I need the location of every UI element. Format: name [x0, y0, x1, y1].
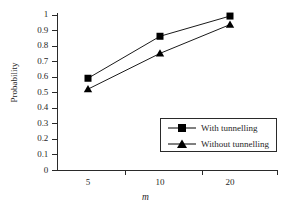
legend-entry-without-tunnelling: Without tunnelling [161, 136, 278, 152]
legend-marker-triangle-icon [167, 136, 197, 152]
x-tick-mark [202, 170, 203, 175]
y-tick-label: 0.6 [37, 72, 48, 81]
y-tick-mark [52, 123, 57, 124]
y-axis-title: Probability [10, 43, 19, 123]
y-tick-mark [52, 61, 57, 62]
legend-entry-with-tunnelling: With tunnelling [161, 120, 278, 136]
y-tick-mark [52, 46, 57, 47]
y-tick-label: 0.8 [37, 41, 48, 50]
y-tick-label: 0.2 [37, 134, 48, 143]
y-tick-label: 0.4 [37, 103, 48, 112]
y-tick-label: 0.1 [37, 150, 48, 159]
legend-marker-square-icon [167, 120, 197, 136]
y-tick-label: 0.7 [37, 57, 48, 66]
y-tick-label: 1 [44, 10, 48, 19]
data-point-triangle-icon [156, 49, 164, 56]
y-tick-mark [52, 170, 57, 171]
data-point-triangle-icon [84, 85, 92, 92]
y-tick-label: 0.3 [37, 119, 48, 128]
y-tick-mark [52, 154, 57, 155]
y-tick-mark [52, 15, 57, 16]
x-tick-label: 20 [217, 178, 243, 187]
y-tick-mark [52, 139, 57, 140]
data-point-triangle-icon [226, 20, 234, 27]
x-axis-line [57, 170, 277, 171]
x-tick-label: 5 [75, 178, 101, 187]
x-tick-mark [277, 170, 278, 175]
y-tick-mark [52, 77, 57, 78]
y-tick-mark [52, 92, 57, 93]
legend-label: Without tunnelling [201, 139, 269, 149]
data-point-square-icon [157, 33, 164, 40]
y-tick-label: 0 [44, 166, 48, 175]
data-point-square-icon [85, 75, 92, 82]
chart-legend: With tunnelling Without tunnelling [160, 118, 277, 152]
y-tick-label: 0.5 [37, 88, 48, 97]
x-tick-label: 10 [147, 178, 173, 187]
x-axis-title: m [0, 192, 291, 202]
y-tick-mark [52, 108, 57, 109]
legend-label: With tunnelling [201, 123, 257, 133]
data-point-square-icon [227, 13, 234, 20]
series-line [88, 16, 230, 78]
series-line [88, 25, 230, 90]
y-tick-label: 0.9 [37, 26, 48, 35]
y-axis-line [57, 13, 58, 171]
x-tick-mark [125, 170, 126, 175]
y-tick-mark [52, 30, 57, 31]
chart-figure: 00.10.20.30.40.50.60.70.80.91 51020 Prob… [0, 0, 291, 208]
